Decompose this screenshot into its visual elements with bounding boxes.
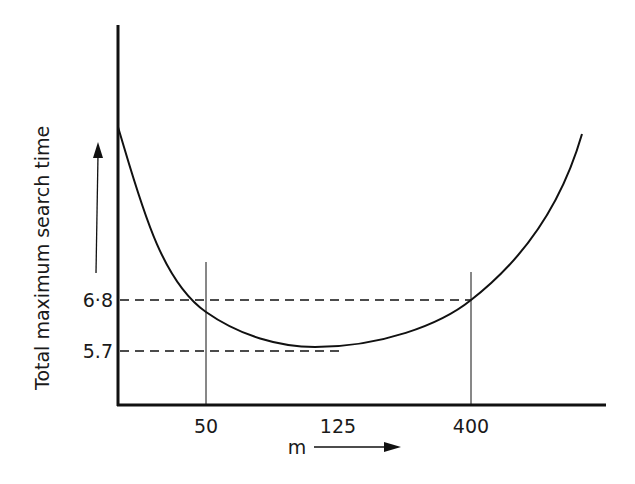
y-tick-label-5-7: 5.7 <box>83 340 113 362</box>
y-tick-label-6-8: 6·8 <box>83 289 113 311</box>
y-arrow-head-icon <box>93 142 103 158</box>
x-tick-label-50: 50 <box>194 415 218 437</box>
chart: 6·8 5.7 50 125 400 m Total maximum searc… <box>0 0 635 484</box>
y-axis-title: Total maximum search time <box>31 126 53 391</box>
x-arrow-head-icon <box>384 442 401 452</box>
x-axis-title: m <box>288 436 307 458</box>
search-time-curve <box>118 127 582 347</box>
x-tick-label-125: 125 <box>320 415 356 437</box>
x-tick-label-400: 400 <box>453 415 489 437</box>
y-arrow-shaft <box>96 155 98 273</box>
